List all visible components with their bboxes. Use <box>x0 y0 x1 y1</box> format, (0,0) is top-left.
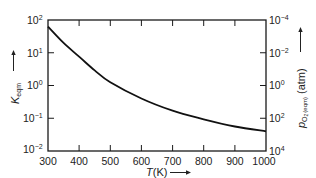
right-y-tick-label: 100 <box>269 79 285 91</box>
left-y-axis-title: Keqm <box>9 50 23 104</box>
right-y-tick-label: 104 <box>269 145 285 157</box>
right-y-tick-labels: 10−4 10−2 100 102 104 <box>269 14 289 157</box>
left-y-tick-label: 101 <box>27 47 43 59</box>
x-tick-label: 300 <box>39 155 57 167</box>
arrow-up-icon <box>11 50 15 71</box>
x-tick-label: 800 <box>195 155 213 167</box>
right-y-tick-label: 10−4 <box>269 14 289 26</box>
chart: 300 400 500 600 700 800 900 1000 102 101… <box>0 0 316 178</box>
x-axis-title: T(K) <box>146 166 191 178</box>
left-y-tick-label: 100 <box>27 79 43 91</box>
left-y-ticks <box>48 53 54 119</box>
right-y-tick-label: 102 <box>269 112 285 124</box>
right-y-ticks <box>260 53 266 119</box>
x-tick-label: 500 <box>102 155 120 167</box>
svg-text:pO2(eqm)(atm): pO2(eqm)(atm) <box>295 68 309 129</box>
right-y-axis-title: pO2(eqm)(atm) <box>295 27 309 129</box>
left-y-tick-labels: 102 101 100 10−1 10−2 <box>23 14 43 155</box>
arrow-right-icon <box>170 170 191 174</box>
k-eqm-curve <box>48 27 266 132</box>
left-y-tick-label: 10−2 <box>23 143 43 155</box>
svg-text:Keqm: Keqm <box>9 83 23 104</box>
x-ticks <box>79 20 235 151</box>
arrow-up-icon <box>298 27 302 52</box>
x-tick-label: 400 <box>70 155 88 167</box>
right-y-tick-label: 10−2 <box>269 47 289 59</box>
svg-text:T(K): T(K) <box>146 166 167 178</box>
left-y-tick-label: 10−1 <box>23 112 43 124</box>
left-y-tick-label: 102 <box>27 14 43 26</box>
plot-frame <box>48 20 266 151</box>
x-tick-label: 900 <box>226 155 244 167</box>
